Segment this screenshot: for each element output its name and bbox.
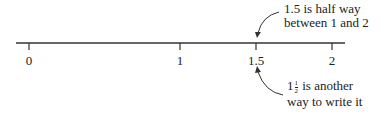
- annotation-top-line2: between 1 and 2: [284, 16, 369, 30]
- arrow-top-head: [255, 32, 261, 38]
- annotation-bottom-line2: way to write it: [287, 95, 362, 109]
- arrow-top-curve: [258, 12, 279, 33]
- annotation-bottom-line1: 112 is another: [287, 79, 362, 95]
- annotation-bottom: 112 is another way to write it: [287, 79, 362, 109]
- tick-label-2: 2: [329, 54, 336, 67]
- annotation-bottom-line1-text: is another: [299, 78, 353, 93]
- mixed-number-whole: 1: [287, 78, 294, 93]
- mixed-number-fraction: 12: [295, 80, 299, 95]
- tick-label-1-5: 1.5: [248, 54, 264, 67]
- arrow-bottom-curve: [258, 72, 283, 95]
- annotation-top: 1.5 is half way between 1 and 2: [284, 2, 369, 30]
- tick-label-0: 0: [26, 54, 33, 67]
- annotation-top-line1: 1.5 is half way: [284, 2, 369, 16]
- tick-label-1: 1: [177, 54, 184, 67]
